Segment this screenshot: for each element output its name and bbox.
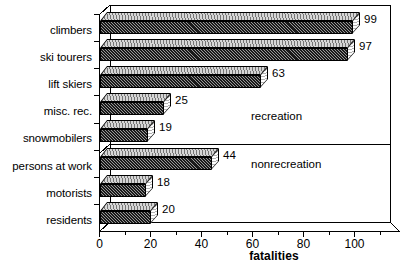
bar-front-face [100, 211, 151, 224]
bar-ski-tourers [100, 39, 348, 61]
bar-motorists [100, 175, 146, 197]
bar-front-face [100, 129, 148, 142]
bar-top-face [100, 148, 219, 157]
x-axis-title: fatalities [0, 249, 410, 263]
category-label-misc-rec: misc. rec. [44, 105, 92, 117]
bar-residents [100, 202, 151, 224]
category-label-lift-skiers: lift skiers [48, 78, 92, 90]
value-label-persons-at-work: 44 [223, 149, 236, 161]
annotation-nonrecreation: nonrecreation [251, 158, 321, 170]
bar-persons-at-work [100, 148, 212, 170]
y-axis-ticks [94, 15, 100, 205]
value-label-motorists: 18 [157, 176, 170, 188]
x-axis-minor-ticks [125, 232, 380, 235]
bar-front-face [100, 48, 348, 61]
bar-front-face [100, 21, 353, 34]
bar-top-face [100, 39, 355, 48]
bar-front-face [100, 102, 164, 115]
bar-top-face [100, 12, 360, 21]
x-axis-title-text: fatalities [249, 249, 299, 263]
category-label-persons-at-work: persons at work [12, 160, 92, 172]
bar-top-face [100, 202, 158, 211]
value-label-lift-skiers: 63 [272, 67, 285, 79]
value-label-residents: 20 [162, 203, 175, 215]
category-label-climbers: climbers [50, 24, 92, 36]
x-axis-major-ticks [100, 232, 355, 238]
bar-front-face [100, 75, 261, 88]
plot-depth-edge-right [390, 222, 400, 232]
bar-lift-skiers [100, 66, 261, 88]
bar-snowmobilers [100, 120, 148, 142]
category-label-ski-tourers: ski tourers [40, 51, 92, 63]
annotation-recreation: recreation [251, 110, 302, 122]
bar-chart: climbers ski tourers lift skiers misc. r… [0, 0, 410, 267]
value-label-misc-rec: 25 [175, 94, 188, 106]
value-label-ski-tourers: 97 [359, 40, 372, 52]
category-label-snowmobilers: snowmobilers [23, 132, 92, 144]
bar-top-face [100, 66, 268, 75]
category-label-residents: residents [46, 214, 92, 226]
category-label-motorists: motorists [46, 187, 92, 199]
value-label-climbers: 99 [364, 13, 377, 25]
bar-front-face [100, 157, 212, 170]
value-label-snowmobilers: 19 [159, 121, 172, 133]
bar-top-face [100, 93, 171, 102]
bar-front-face [100, 184, 146, 197]
bar-climbers [100, 12, 353, 34]
bar-misc-rec [100, 93, 164, 115]
